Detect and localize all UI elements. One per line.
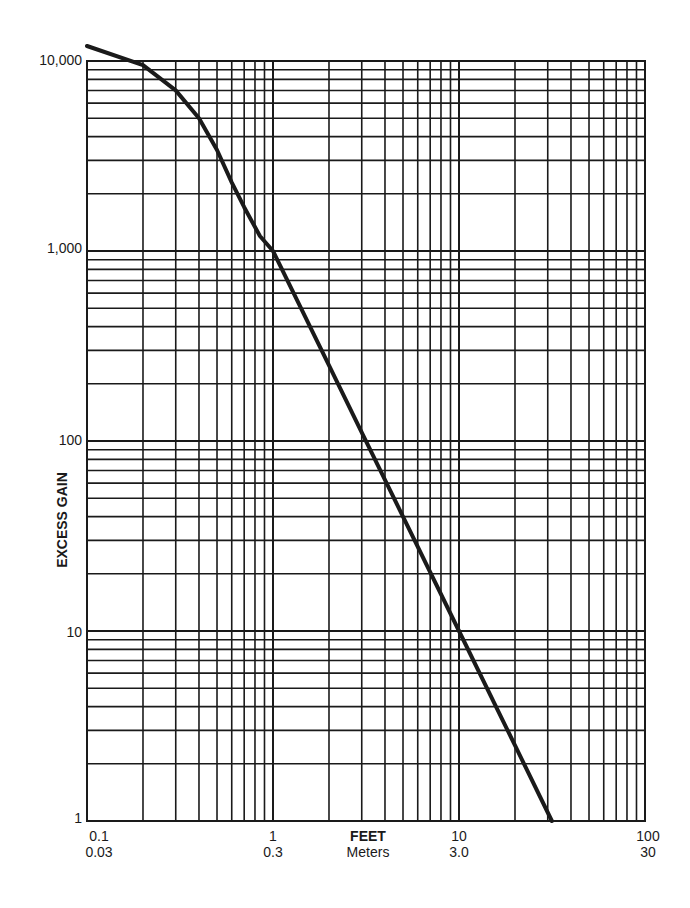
y-tick-10000: 10,000: [22, 52, 82, 68]
x-tick-100: 100 30: [618, 828, 678, 860]
x-tick-feet: 1: [243, 828, 303, 844]
y-tick-10: 10: [22, 624, 82, 640]
x-tick-0.1: 0.1 0.03: [69, 828, 129, 860]
y-tick-1: 1: [22, 810, 82, 826]
y-tick-1000: 1,000: [22, 240, 82, 256]
x-axis-title: FEET Meters: [328, 828, 408, 860]
x-tick-feet: 100: [618, 828, 678, 844]
x-axis-title-feet: FEET: [328, 828, 408, 844]
excess-gain-curve: [87, 46, 552, 821]
x-tick-feet: 0.1: [69, 828, 129, 844]
y-tick-100: 100: [22, 432, 82, 448]
x-tick-meters: 0.3: [243, 844, 303, 860]
y-axis-title: EXCESS GAIN: [54, 470, 70, 570]
log-log-chart: [0, 0, 690, 908]
x-tick-1: 1 0.3: [243, 828, 303, 860]
x-tick-feet: 10: [429, 828, 489, 844]
x-tick-meters: 30: [618, 844, 678, 860]
x-axis-title-meters: Meters: [328, 844, 408, 860]
x-tick-meters: 3.0: [429, 844, 489, 860]
x-tick-10: 10 3.0: [429, 828, 489, 860]
x-tick-meters: 0.03: [69, 844, 129, 860]
